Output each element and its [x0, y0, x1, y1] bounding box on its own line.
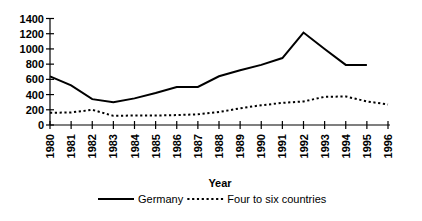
line-chart: 0200400600800100012001400 19801981198219… — [0, 0, 422, 221]
y-axis-tick-label: 1000 — [20, 43, 44, 55]
x-axis-tick-label: 1992 — [298, 134, 310, 158]
x-axis-tick-label: 1984 — [129, 133, 141, 158]
x-axis-tick-label: 1982 — [86, 134, 98, 158]
chart-legend: GermanyFour to six countries — [98, 193, 327, 205]
chart-svg: 0200400600800100012001400 19801981198219… — [0, 0, 422, 221]
x-axis-tick-label: 1988 — [213, 134, 225, 158]
x-axis-tick-label: 1996 — [382, 134, 394, 158]
y-axis-tick-label: 200 — [26, 104, 44, 116]
x-axis-tick-label: 1987 — [192, 134, 204, 158]
y-axis-tick-label: 400 — [26, 89, 44, 101]
x-axis-tick-label: 1993 — [319, 134, 331, 158]
x-axis-tick-label: 1981 — [65, 134, 77, 158]
x-axis-title: Year — [208, 177, 232, 189]
x-axis-tick-label: 1980 — [44, 134, 56, 158]
x-axis-tick-labels: 1980198119821983198419851986198719881989… — [44, 133, 394, 158]
series-line-germany — [50, 33, 367, 103]
x-axis-tick-label: 1995 — [361, 134, 373, 158]
y-axis-tick-labels: 0200400600800100012001400 — [20, 13, 44, 132]
y-axis-tick-label: 0 — [38, 119, 44, 131]
y-axis-tick-label: 600 — [26, 73, 44, 85]
x-axis-tick-label: 1983 — [107, 134, 119, 158]
legend-label: Four to six countries — [227, 193, 327, 205]
y-axis-tick-label: 1200 — [20, 28, 44, 40]
x-axis-tick-label: 1990 — [255, 134, 267, 158]
x-axis-tick-label: 1986 — [171, 134, 183, 158]
x-axis-tick-label: 1991 — [276, 134, 288, 158]
x-axis-tick-label: 1985 — [150, 134, 162, 158]
x-axis-tick-label: 1994 — [340, 133, 352, 158]
y-axis-tick-label: 1400 — [20, 13, 44, 25]
y-axis-tick-label: 800 — [26, 58, 44, 70]
legend-label: Germany — [138, 193, 184, 205]
x-axis-tick-label: 1989 — [234, 134, 246, 158]
